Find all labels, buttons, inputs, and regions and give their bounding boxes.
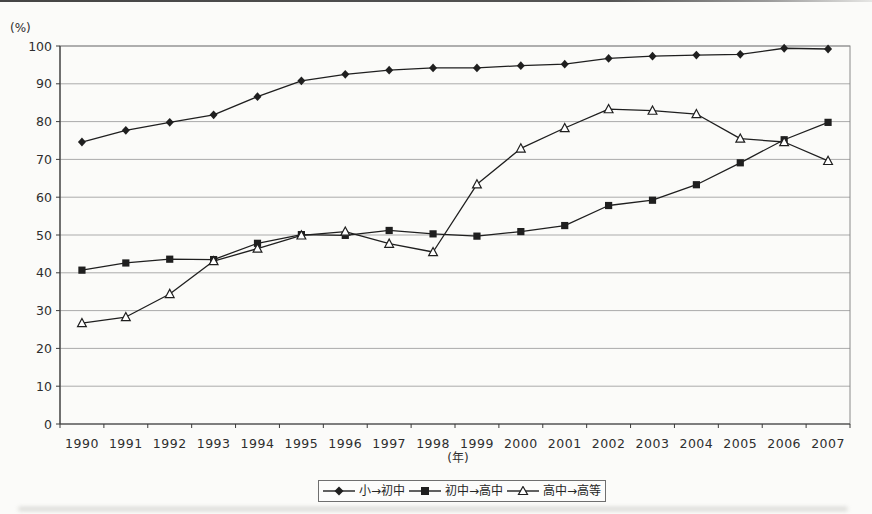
diamond-marker-icon	[323, 486, 355, 496]
scan-artifact-bottom-smudge	[18, 507, 848, 511]
svg-text:60: 60	[36, 190, 52, 205]
svg-text:1992: 1992	[153, 436, 187, 451]
svg-text:2006: 2006	[767, 436, 801, 451]
svg-text:1998: 1998	[416, 436, 450, 451]
svg-text:2004: 2004	[679, 436, 713, 451]
gridlines	[60, 46, 850, 386]
legend-label: 小→初中	[359, 485, 405, 497]
svg-text:50: 50	[36, 228, 52, 243]
x-axis-unit-label: (年)	[447, 451, 468, 465]
svg-text:2005: 2005	[723, 436, 757, 451]
svg-text:10: 10	[36, 379, 52, 394]
triangle-marker-icon	[507, 486, 539, 496]
svg-text:1991: 1991	[109, 436, 143, 451]
svg-text:1997: 1997	[372, 436, 406, 451]
svg-text:80: 80	[36, 114, 52, 129]
series-triangle-open	[78, 105, 833, 327]
chart-legend: 小→初中 初中→高中 高中→高等	[318, 480, 606, 502]
legend-label: 初中→高中	[445, 485, 503, 497]
x-axis-labels: 1990199119921993199419951996199719981999…	[65, 436, 845, 451]
svg-text:1990: 1990	[65, 436, 99, 451]
svg-text:2001: 2001	[548, 436, 582, 451]
svg-text:20: 20	[36, 341, 52, 356]
y-axis-unit-label: (%)	[10, 21, 31, 35]
line-chart: 0102030405060708090100(%)199019911992199…	[0, 0, 872, 514]
svg-text:1993: 1993	[197, 436, 231, 451]
legend-entry-senior-to-higher: 高中→高等	[507, 485, 601, 497]
scanned-line-chart-page: 0102030405060708090100(%)199019911992199…	[0, 0, 872, 514]
legend-entry-junior-to-senior: 初中→高中	[409, 485, 503, 497]
legend-entry-primary-to-junior: 小→初中	[323, 485, 405, 497]
svg-text:2002: 2002	[592, 436, 626, 451]
y-axis-labels: 0102030405060708090100	[28, 39, 52, 432]
series-square-filled	[78, 119, 831, 274]
svg-text:40: 40	[36, 265, 52, 280]
svg-text:1994: 1994	[241, 436, 275, 451]
svg-text:2007: 2007	[811, 436, 845, 451]
svg-text:100: 100	[28, 39, 52, 54]
svg-text:2000: 2000	[504, 436, 538, 451]
axis-ticks	[56, 46, 850, 428]
svg-text:0: 0	[44, 417, 52, 432]
square-marker-icon	[409, 486, 441, 496]
svg-text:2003: 2003	[636, 436, 670, 451]
svg-text:30: 30	[36, 303, 52, 318]
series-line	[82, 48, 828, 142]
svg-text:1995: 1995	[284, 436, 318, 451]
series-diamond-filled	[78, 44, 832, 147]
series-line	[82, 109, 828, 323]
svg-text:70: 70	[36, 152, 52, 167]
svg-text:1999: 1999	[460, 436, 494, 451]
series-line	[82, 122, 828, 270]
legend-label: 高中→高等	[543, 485, 601, 497]
svg-text:90: 90	[36, 76, 52, 91]
svg-text:1996: 1996	[328, 436, 362, 451]
